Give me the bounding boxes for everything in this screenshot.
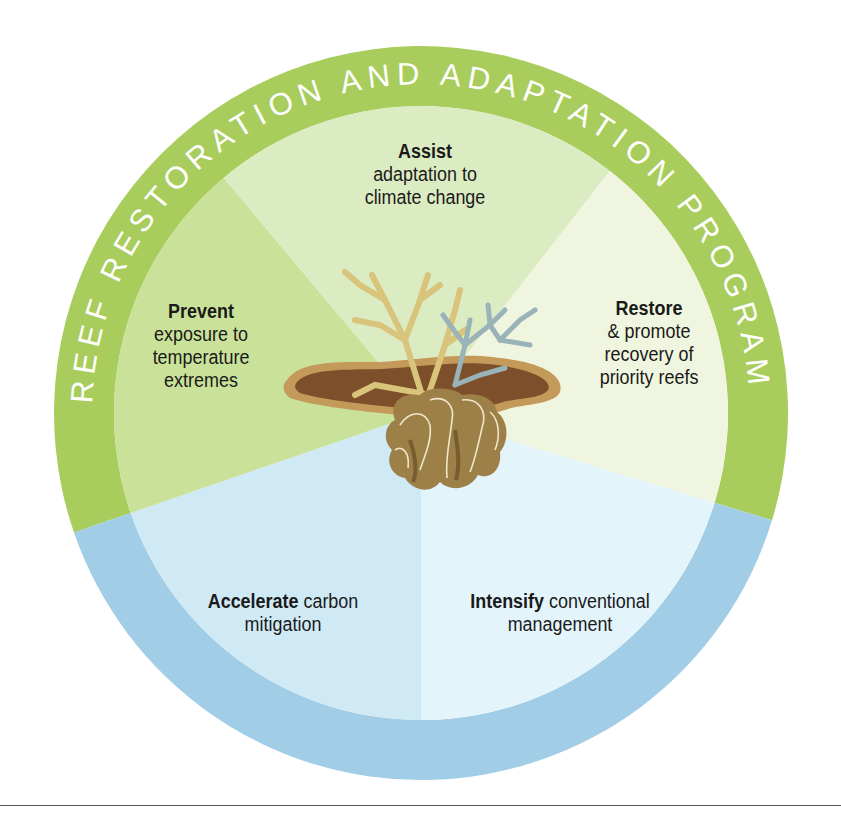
segment-label-assist: Assist adaptation to climate change: [365, 140, 486, 209]
segment-text-line: & promote: [608, 320, 691, 342]
segment-text-rest: conventional: [544, 590, 650, 612]
segment-title-assist: Assist: [398, 140, 452, 162]
segment-text-line: management: [508, 613, 613, 635]
segment-title-restore: Restore: [616, 297, 683, 319]
segment-label-intensify: Intensify conventional management: [470, 590, 650, 636]
segment-label-accelerate: Accelerate carbon mitigation: [208, 590, 359, 636]
segment-text-line: exposure to: [154, 323, 248, 345]
reef-program-diagram: REEF RESTORATION AND ADAPTATION PROGRAM …: [0, 0, 841, 813]
segment-title-intensify: Intensify: [470, 590, 544, 612]
segment-title-prevent: Prevent: [168, 300, 234, 322]
segment-text-line: climate change: [365, 186, 486, 208]
segment-text-rest: carbon: [298, 590, 358, 612]
segment-text-line: extremes: [164, 369, 238, 391]
segment-label-restore: Restore & promote recovery of priority r…: [600, 297, 699, 389]
segment-text-line: priority reefs: [600, 366, 699, 388]
segment-text-line: temperature: [153, 346, 250, 368]
segment-label-prevent: Prevent exposure to temperature extremes: [153, 300, 250, 392]
segment-text-line: adaptation to: [373, 163, 477, 185]
bottom-divider: [0, 805, 841, 806]
segment-text-line: recovery of: [605, 343, 694, 365]
segment-title-accelerate: Accelerate: [208, 590, 299, 612]
segment-text-line: mitigation: [245, 613, 322, 635]
